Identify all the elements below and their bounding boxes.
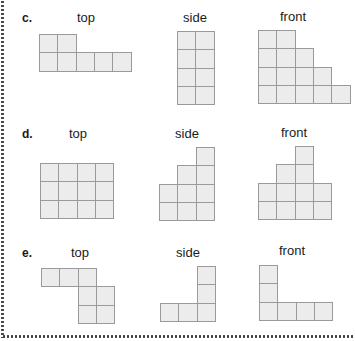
block-cell xyxy=(96,286,115,305)
block-cell xyxy=(295,183,314,202)
block-cell xyxy=(77,200,96,219)
block-cell xyxy=(159,202,178,221)
problem-c-letter: c. xyxy=(22,11,32,25)
block-cell xyxy=(313,67,332,86)
problem-d-side-title: side xyxy=(175,127,199,141)
block-cell xyxy=(331,85,350,104)
block-cell xyxy=(195,68,214,87)
block-cell xyxy=(197,266,216,285)
problem-c-front-title: front xyxy=(280,10,306,24)
block-cell xyxy=(160,303,179,322)
block-cell xyxy=(76,52,95,71)
block-cell xyxy=(39,34,58,53)
block-cell xyxy=(258,48,277,67)
block-cell xyxy=(296,302,315,321)
block-cell xyxy=(95,181,114,200)
block-cell xyxy=(258,183,277,202)
block-cell xyxy=(276,30,295,49)
block-cell xyxy=(178,303,197,322)
block-cell xyxy=(259,283,278,302)
block-cell xyxy=(276,67,295,86)
problem-e-letter: e. xyxy=(22,246,32,260)
block-cell xyxy=(196,184,215,203)
problem-e-top-title: top xyxy=(71,246,89,260)
block-cell xyxy=(259,302,278,321)
dotted-border-left xyxy=(1,0,4,338)
block-cell xyxy=(196,147,215,166)
block-cell xyxy=(197,284,216,303)
block-cell xyxy=(177,184,196,203)
block-cell xyxy=(57,52,76,71)
block-cell xyxy=(59,268,78,287)
block-cell xyxy=(41,268,60,287)
block-cell xyxy=(95,200,114,219)
block-cell xyxy=(177,165,196,184)
block-cell xyxy=(78,305,97,324)
block-cell xyxy=(195,31,214,50)
block-cell xyxy=(77,163,96,182)
problem-e-side-title: side xyxy=(176,246,200,260)
block-cell xyxy=(276,183,295,202)
block-cell xyxy=(78,268,97,287)
block-cell xyxy=(39,52,58,71)
block-cell xyxy=(58,163,77,182)
block-cell xyxy=(195,86,214,105)
block-cell xyxy=(295,164,314,183)
problem-e-front-title: front xyxy=(279,244,305,258)
problem-c-side-title: side xyxy=(183,11,207,25)
block-cell xyxy=(259,265,278,284)
block-cell xyxy=(177,86,196,105)
block-cell xyxy=(40,181,59,200)
block-cell xyxy=(177,68,196,87)
block-cell xyxy=(177,49,196,68)
block-cell xyxy=(57,34,76,53)
block-cell xyxy=(78,286,97,305)
block-cell xyxy=(313,201,332,220)
block-cell xyxy=(197,303,216,322)
block-cell xyxy=(94,52,113,71)
block-cell xyxy=(295,67,314,86)
problem-c-top-title: top xyxy=(77,11,95,25)
problem-d-letter: d. xyxy=(22,127,33,141)
block-cell xyxy=(195,49,214,68)
block-cell xyxy=(313,183,332,202)
block-cell xyxy=(58,200,77,219)
block-cell xyxy=(258,30,277,49)
block-cell xyxy=(40,200,59,219)
block-cell xyxy=(258,85,277,104)
block-cell xyxy=(177,202,196,221)
block-cell xyxy=(276,85,295,104)
block-cell xyxy=(276,48,295,67)
block-cell xyxy=(295,85,314,104)
problem-d-top-title: top xyxy=(69,127,87,141)
block-cell xyxy=(40,163,59,182)
block-cell xyxy=(58,181,77,200)
block-cell xyxy=(295,146,314,165)
block-cell xyxy=(95,163,114,182)
block-cell xyxy=(258,201,277,220)
problem-d-front-title: front xyxy=(281,126,307,140)
block-cell xyxy=(276,164,295,183)
block-cell xyxy=(112,52,131,71)
block-cell xyxy=(159,184,178,203)
block-cell xyxy=(96,305,115,324)
dotted-border-bottom xyxy=(2,335,355,338)
block-cell xyxy=(277,302,296,321)
block-cell xyxy=(295,48,314,67)
block-cell xyxy=(196,202,215,221)
block-cell xyxy=(177,31,196,50)
block-cell xyxy=(258,67,277,86)
block-cell xyxy=(196,165,215,184)
block-cell xyxy=(314,302,333,321)
block-cell xyxy=(313,85,332,104)
block-cell xyxy=(295,201,314,220)
block-cell xyxy=(77,181,96,200)
block-cell xyxy=(276,201,295,220)
